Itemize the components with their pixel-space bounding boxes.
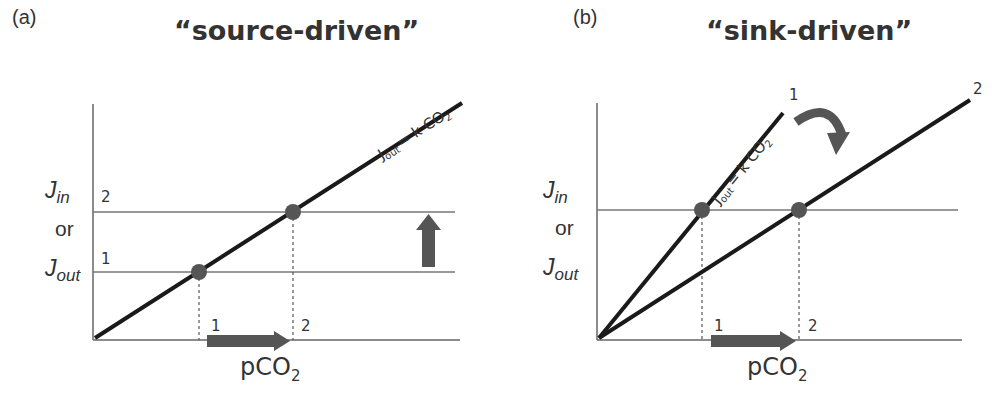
svg-text:Jout= k CO2: Jout= k CO2 bbox=[708, 132, 775, 208]
panel-a-equation: Jout= k CO2 bbox=[374, 104, 454, 165]
panel-a-x-axis-label: pCO2 bbox=[240, 353, 300, 385]
panel-b-label: (b) bbox=[573, 6, 597, 28]
panel-b-point-1 bbox=[694, 202, 710, 218]
panel-a: (a) “source-driven” 1 2 Jout= k CO2 bbox=[12, 6, 462, 385]
panel-a-y-axis-label: Jin or Jout bbox=[44, 177, 81, 285]
panel-a-label: (a) bbox=[12, 6, 36, 28]
svg-text:Jout= k CO2: Jout= k CO2 bbox=[374, 104, 454, 165]
svg-text:or: or bbox=[55, 217, 74, 240]
panel-b-x-tick-1: 1 bbox=[714, 317, 724, 335]
panel-a-point-2 bbox=[285, 204, 301, 220]
panel-b-title: “sink-driven” bbox=[706, 15, 912, 46]
panel-a-point-1 bbox=[191, 264, 207, 280]
svg-text:Jout: Jout bbox=[44, 255, 81, 285]
panel-b: (b) “sink-driven” Jout= k CO2 1 2 bbox=[542, 6, 983, 385]
svg-text:Jin: Jin bbox=[44, 177, 70, 207]
panel-b-x-axis-label: pCO2 bbox=[747, 353, 807, 385]
panel-b-right-arrow-head-icon bbox=[780, 331, 796, 351]
panel-b-right-arrow-icon bbox=[711, 335, 781, 347]
panel-b-equation: Jout= k CO2 bbox=[708, 132, 775, 208]
panel-a-up-arrow-icon bbox=[416, 214, 441, 267]
panel-b-line-2 bbox=[599, 100, 970, 338]
figure-canvas: (a) “source-driven” 1 2 Jout= k CO2 bbox=[0, 0, 1006, 401]
panel-a-level-1-label: 1 bbox=[101, 250, 111, 268]
panel-b-line-2-label: 2 bbox=[973, 80, 983, 98]
panel-b-x-tick-2: 2 bbox=[808, 317, 818, 335]
panel-a-x-tick-2: 2 bbox=[301, 317, 311, 335]
svg-text:Jin: Jin bbox=[542, 177, 568, 207]
svg-text:or: or bbox=[555, 216, 574, 239]
panel-a-level-2-label: 2 bbox=[101, 188, 111, 206]
panel-b-y-axis-label: Jin or Jout bbox=[542, 177, 579, 284]
panel-b-line-1-label: 1 bbox=[789, 86, 799, 104]
panel-a-title: “source-driven” bbox=[174, 15, 419, 46]
panel-a-right-arrow-head-icon bbox=[274, 331, 290, 351]
svg-text:Jout: Jout bbox=[542, 254, 579, 284]
panel-b-point-2 bbox=[791, 202, 807, 218]
panel-a-x-tick-1: 1 bbox=[211, 317, 221, 335]
panel-b-curved-arrow-icon bbox=[796, 113, 850, 155]
panel-a-right-arrow-icon bbox=[207, 335, 275, 347]
